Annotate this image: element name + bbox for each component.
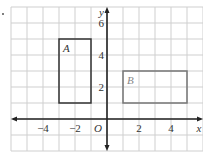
x-tick-label: 2 [136, 122, 142, 134]
x-tick-label: −4 [37, 122, 49, 134]
y-tick-label: 4 [99, 49, 105, 61]
y-tick-label: 2 [99, 81, 105, 93]
coordinate-grid: AB−4−224246Oxy [0, 0, 203, 157]
x-axis-label: x [196, 122, 202, 134]
rectangle-label-a: A [62, 42, 70, 54]
origin-label: O [94, 122, 102, 134]
x-axis-arrow-right-icon [197, 117, 203, 122]
y-axis-label: y [98, 6, 104, 18]
y-axis-arrow-up-icon [105, 7, 110, 13]
y-tick-label: 6 [99, 17, 105, 29]
x-tick-label: −2 [69, 122, 81, 134]
y-axis-arrow-down-icon [105, 145, 110, 151]
x-axis-arrow-left-icon [11, 117, 17, 122]
x-tick-label: 4 [168, 122, 174, 134]
rectangle-label-b: B [127, 74, 134, 86]
